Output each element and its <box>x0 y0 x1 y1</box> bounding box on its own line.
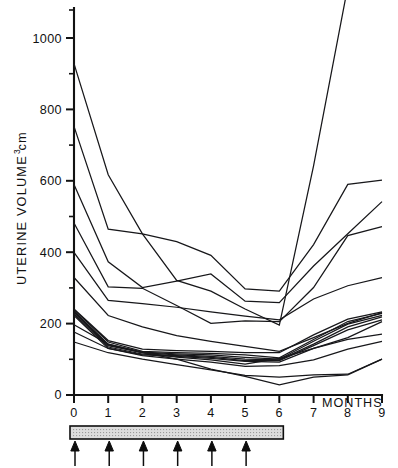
x-tick-label-1: 1 <box>104 406 111 420</box>
bar-stipple-dot <box>154 432 155 433</box>
bar-stipple-dot <box>160 429 161 430</box>
bar-stipple-dot <box>250 435 251 436</box>
bar-stipple-dot <box>190 435 191 436</box>
bar-stipple-dot <box>244 435 245 436</box>
bar-stipple-dot <box>256 432 257 433</box>
bar-stipple-dot <box>142 429 143 430</box>
y-axis-title: UTERINE VOLUME cm 3 <box>12 131 29 285</box>
bar-stipple-dot <box>148 432 149 433</box>
bar-stipple-dot <box>91 432 92 433</box>
bar-stipple-dot <box>184 429 185 430</box>
bar-stipple-dot <box>160 435 161 436</box>
bar-stipple-dot <box>250 432 251 433</box>
bar-stipple-dot <box>112 432 113 433</box>
bar-stipple-dot <box>220 432 221 433</box>
bar-stipple-dot <box>139 435 140 436</box>
x-tick-label-5: 5 <box>241 406 248 420</box>
bar-stipple-dot <box>274 435 275 436</box>
bar-stipple-dot <box>172 429 173 430</box>
bar-stipple-dot <box>196 435 197 436</box>
bar-stipple-dot <box>181 435 182 436</box>
bar-stipple-dot <box>253 432 254 433</box>
bar-stipple-dot <box>223 432 224 433</box>
bar-stipple-dot <box>127 429 128 430</box>
bar-stipple-dot <box>88 435 89 436</box>
bar-stipple-dot <box>94 435 95 436</box>
treatment-bar-rect <box>70 426 283 439</box>
bar-stipple-dot <box>274 432 275 433</box>
bar-stipple-dot <box>175 435 176 436</box>
bar-stipple-dot <box>151 435 152 436</box>
bar-stipple-dot <box>73 435 74 436</box>
bar-stipple-dot <box>193 432 194 433</box>
bar-stipple-dot <box>238 432 239 433</box>
bar-stipple-dot <box>166 429 167 430</box>
bar-stipple-dot <box>235 432 236 433</box>
bar-stipple-dot <box>253 435 254 436</box>
bar-stipple-dot <box>181 432 182 433</box>
bar-stipple-dot <box>130 435 131 436</box>
bar-stipple-dot <box>208 435 209 436</box>
bar-stipple-dot <box>217 432 218 433</box>
bar-stipple-dot <box>103 432 104 433</box>
y-tick-label-800: 800 <box>40 103 62 117</box>
bar-stipple-dot <box>280 432 281 433</box>
bar-stipple-dot <box>130 429 131 430</box>
bar-stipple-dot <box>181 429 182 430</box>
bar-stipple-dot <box>211 432 212 433</box>
bar-stipple-dot <box>247 429 248 430</box>
x-axis-title: MONTHS <box>322 396 383 410</box>
bar-stipple-dot <box>106 432 107 433</box>
bar-stipple-dot <box>244 432 245 433</box>
bar-stipple-dot <box>121 432 122 433</box>
x-tick-label-2: 2 <box>139 406 146 420</box>
x-tick-label-0: 0 <box>70 406 77 420</box>
bar-stipple-dot <box>115 429 116 430</box>
bar-stipple-dot <box>256 429 257 430</box>
bar-stipple-dot <box>118 432 119 433</box>
bar-stipple-dot <box>202 432 203 433</box>
bar-stipple-dot <box>229 435 230 436</box>
bar-stipple-dot <box>193 429 194 430</box>
bar-stipple-dot <box>247 432 248 433</box>
bar-stipple-dot <box>175 429 176 430</box>
y-tick-label-400: 400 <box>40 246 62 260</box>
bar-stipple-dot <box>85 435 86 436</box>
bar-stipple-dot <box>169 429 170 430</box>
bar-stipple-dot <box>127 432 128 433</box>
bar-stipple-dot <box>124 429 125 430</box>
bar-stipple-dot <box>97 435 98 436</box>
bar-stipple-dot <box>262 435 263 436</box>
bar-stipple-dot <box>217 435 218 436</box>
bar-stipple-dot <box>199 432 200 433</box>
bar-stipple-dot <box>118 429 119 430</box>
bar-stipple-dot <box>112 435 113 436</box>
bar-stipple-dot <box>82 435 83 436</box>
bar-stipple-dot <box>82 432 83 433</box>
bar-stipple-dot <box>166 432 167 433</box>
bar-stipple-dot <box>262 432 263 433</box>
bar-stipple-dot <box>103 429 104 430</box>
bar-stipple-dot <box>76 429 77 430</box>
y-tick-label-600: 600 <box>40 174 62 188</box>
bar-stipple-dot <box>268 429 269 430</box>
bar-stipple-dot <box>259 429 260 430</box>
bar-stipple-dot <box>223 429 224 430</box>
bar-stipple-dot <box>85 429 86 430</box>
bar-stipple-dot <box>280 429 281 430</box>
bar-stipple-dot <box>271 429 272 430</box>
bar-stipple-dot <box>265 432 266 433</box>
bar-stipple-dot <box>163 435 164 436</box>
bar-stipple-dot <box>178 429 179 430</box>
bar-stipple-dot <box>208 429 209 430</box>
bar-stipple-dot <box>265 429 266 430</box>
x-tick-label-4: 4 <box>207 406 214 420</box>
bar-stipple-dot <box>157 429 158 430</box>
bar-stipple-dot <box>199 435 200 436</box>
bar-stipple-dot <box>193 435 194 436</box>
bar-stipple-dot <box>112 429 113 430</box>
x-tick-label-6: 6 <box>276 406 283 420</box>
bar-stipple-dot <box>265 435 266 436</box>
bar-stipple-dot <box>175 432 176 433</box>
bar-stipple-dot <box>169 432 170 433</box>
